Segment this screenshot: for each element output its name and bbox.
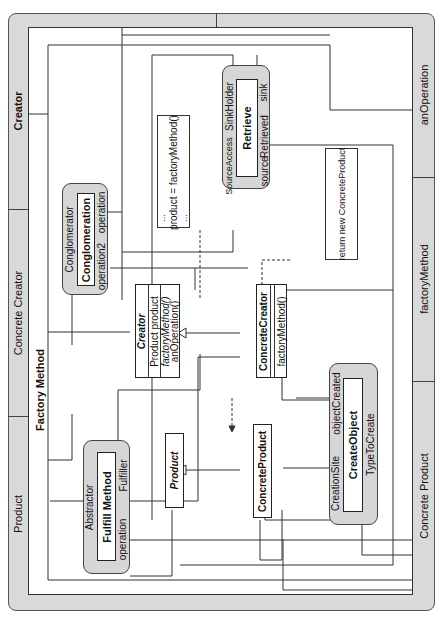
note-creator-line1: ... bbox=[157, 210, 167, 225]
role-sourceaccess: SourceAccess bbox=[222, 146, 236, 186]
role-operation: operation bbox=[95, 186, 108, 238]
role-fulfiller: Fulfiller bbox=[116, 444, 130, 506]
class-creator-op-anoperation: anOperation() bbox=[170, 286, 180, 376]
collab-conglomeration-name: Conglomeration bbox=[77, 193, 95, 286]
class-product-name: Product bbox=[165, 433, 184, 508]
role-conglomerator: Conglomerator bbox=[62, 186, 77, 292]
role-operation-fulfill: operation bbox=[116, 508, 130, 570]
class-concrete-product-name: ConcreteProduct bbox=[253, 424, 272, 518]
class-creator-name: Creator bbox=[135, 286, 148, 376]
role-creationsite: CreationSite bbox=[329, 444, 343, 522]
role-source: source bbox=[258, 156, 270, 186]
role-sink: sink bbox=[258, 68, 270, 116]
class-divider bbox=[270, 284, 271, 378]
role-operation2: operation2 bbox=[95, 240, 108, 292]
role-typetocreate: TypeToCreate bbox=[363, 366, 378, 522]
class-creator-attribute: Product product bbox=[148, 286, 160, 376]
note-concrete-creator-text: return new ConcreteProduct bbox=[335, 150, 349, 258]
collab-fulfill-method-name: Fulfill Method bbox=[97, 452, 116, 561]
role-abstractor: Abstractor bbox=[83, 444, 97, 570]
class-concrete-creator-op-factorymethod: factoryMethod() bbox=[275, 286, 287, 376]
note-creator-line3: ... bbox=[179, 210, 189, 225]
note-creator-line2: product = factoryMethod() bbox=[167, 120, 179, 225]
role-retrieved: Retrieved bbox=[258, 118, 270, 154]
class-concrete-creator-name: ConcreteCreator bbox=[256, 286, 270, 376]
collab-create-object-name: CreateObject bbox=[343, 378, 363, 512]
collab-retrieve-name: Retrieve bbox=[236, 79, 258, 177]
role-sinkholder: SinkHolder bbox=[222, 68, 236, 144]
role-objectcreated: objectCreated bbox=[329, 366, 343, 440]
